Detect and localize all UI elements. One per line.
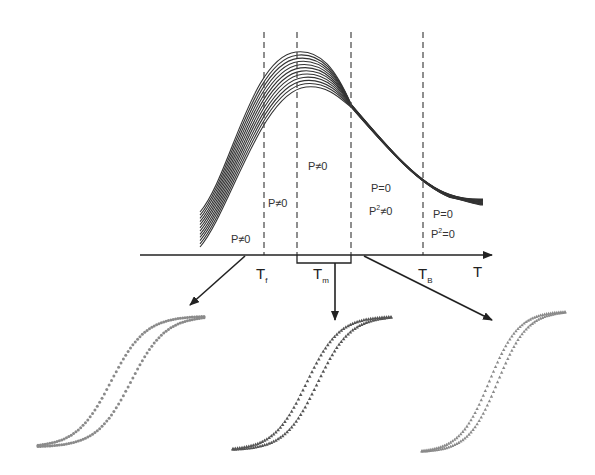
circle-marker [117, 366, 120, 369]
triangle-marker [514, 341, 517, 344]
region-3-label: P≠0 [308, 161, 328, 172]
triangle-marker [506, 341, 509, 344]
triangle-marker [319, 353, 323, 356]
triangle-marker [281, 423, 285, 426]
phase-diagram-canvas [0, 0, 595, 475]
region-4-label-p: P=0 [371, 183, 391, 194]
circle-marker [120, 398, 123, 401]
triangle-marker [471, 415, 474, 418]
hysteresis-loop-middle [231, 315, 393, 451]
triangle-marker [301, 409, 305, 412]
triangle-marker [310, 392, 314, 395]
circle-marker [103, 392, 106, 395]
circle-marker [110, 379, 113, 382]
circle-marker [96, 429, 99, 432]
circle-marker [141, 333, 144, 336]
triangle-marker [516, 338, 519, 341]
circle-marker [150, 345, 153, 348]
triangle-marker [310, 370, 314, 373]
circle-marker [127, 350, 130, 353]
triangle-marker [297, 416, 301, 419]
triangle-marker [498, 356, 501, 359]
triangle-marker [508, 337, 511, 340]
circle-marker [148, 348, 151, 351]
triangle-marker [484, 389, 487, 392]
triangle-marker [294, 401, 298, 404]
triangle-marker [488, 379, 491, 382]
circle-marker [77, 428, 80, 431]
triangle-marker [518, 335, 521, 338]
triangle-marker [303, 405, 307, 408]
t-symbol: T [256, 265, 265, 282]
triangle-marker [312, 388, 316, 391]
triangle-marker [303, 384, 307, 387]
triangle-marker [502, 366, 505, 369]
circle-marker [93, 409, 96, 412]
circle-marker [93, 431, 96, 434]
triangle-marker [312, 366, 316, 369]
triangle-marker [475, 422, 478, 425]
circle-marker [120, 362, 123, 365]
hysteresis-loop-right [420, 310, 566, 453]
triangle-marker [335, 346, 339, 349]
region-1-label: P≠0 [231, 234, 251, 245]
triangle-marker [475, 407, 478, 410]
circle-marker [146, 351, 149, 354]
triangle-marker [315, 383, 319, 386]
triangle-marker [326, 361, 330, 364]
circle-marker [138, 335, 141, 338]
triangle-marker [473, 425, 476, 428]
circle-marker [122, 394, 125, 397]
triangle-marker [465, 425, 468, 428]
circle-marker [143, 331, 146, 334]
tb-label: TB [418, 266, 433, 285]
circle-marker [129, 381, 132, 384]
triangle-marker [321, 350, 325, 353]
triangle-marker [283, 420, 287, 423]
triangle-marker [500, 352, 503, 355]
triangle-marker [512, 345, 515, 348]
triangle-marker [315, 361, 319, 364]
circle-marker [112, 375, 115, 378]
subscript-m: m [322, 276, 329, 285]
circle-marker [91, 412, 94, 415]
triangle-marker [321, 370, 325, 373]
circle-marker [96, 405, 99, 408]
hysteresis-loop-left [37, 315, 206, 448]
circle-marker [136, 368, 139, 371]
circle-marker [108, 384, 111, 387]
susceptibility-curve [200, 52, 483, 212]
triangle-marker [478, 403, 481, 406]
triangle-marker [308, 375, 312, 378]
triangle-marker [317, 379, 321, 382]
circle-marker [103, 422, 106, 425]
circle-marker [124, 354, 127, 357]
triangle-marker [510, 334, 513, 337]
triangle-marker [463, 427, 466, 430]
triangle-marker [299, 393, 303, 396]
circle-marker [131, 376, 134, 379]
triangle-marker [301, 388, 305, 391]
triangle-marker [480, 398, 483, 401]
axis-t-label: T [473, 264, 482, 279]
triangle-marker [317, 357, 321, 360]
triangle-marker [328, 357, 332, 360]
triangle-marker [299, 413, 303, 416]
triangle-marker [467, 422, 470, 425]
circle-marker [105, 388, 108, 391]
susceptibility-curve [200, 64, 483, 224]
triangle-marker [285, 417, 289, 420]
arrow-to-left-loop [190, 256, 245, 305]
circle-marker [84, 421, 87, 424]
region-2-label: P≠0 [268, 198, 288, 209]
circle-marker [160, 334, 163, 337]
circle-marker [89, 415, 92, 418]
circle-marker [155, 339, 158, 342]
circle-marker [153, 342, 156, 345]
circle-marker [98, 427, 101, 430]
circle-marker [127, 385, 130, 388]
triangle-marker [496, 360, 499, 363]
triangle-marker [324, 346, 328, 349]
tm-label: Tm [313, 266, 329, 285]
t-symbol: T [418, 265, 427, 282]
